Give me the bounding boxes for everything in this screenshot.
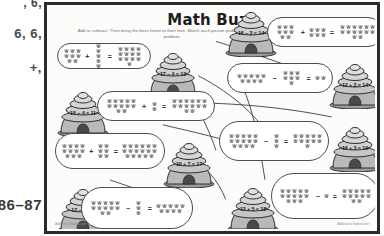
bee-icon [342,189,347,193]
bee-icon [190,109,195,113]
bee-group-addend-b [93,44,104,68]
beehive-hive-10-7[interactable]: 10 + 7 = 17 [161,142,217,188]
beehive-hive-16-3[interactable]: 16 + 3 = 19 [327,126,375,172]
bee-icon [104,144,109,148]
bee-icon [293,134,298,138]
equals-symbol: = [113,148,119,155]
bee-icon [289,25,294,29]
bee-icon [146,149,151,153]
bee-icon [184,109,189,113]
bee-group-addend-b [281,71,303,85]
bee-icon [321,33,326,37]
bee-icon [140,149,145,153]
picture-problem-problem-mid-left[interactable]: + = [97,91,215,121]
bee-icon [309,28,314,32]
bee-icon [74,149,79,153]
bee-icon [136,47,141,51]
bee-icon [261,74,266,78]
operator-symbol: − [263,138,269,145]
picture-problem-contents: − = [88,201,186,215]
beehive-equation-label: 13 + 5 = 18 [225,206,281,212]
bee-icon [229,134,234,138]
picture-problem-problem-top-left[interactable]: + = [57,43,151,69]
bee-icon [253,134,258,138]
bee-icon [358,35,363,39]
bee-group-addend-b [272,134,280,148]
bee-icon [115,206,120,210]
bee-icon [280,189,285,193]
equals-symbol: = [329,29,335,36]
picture-problem-problem-center-right[interactable]: − = [219,121,329,161]
bee-icon [109,201,114,205]
bee-icon [360,194,365,198]
bee-icon [131,154,136,158]
bee-icon [348,194,353,198]
bee-icon [67,59,72,63]
bee-icon [255,74,260,78]
bee-icon [119,104,124,108]
picture-problem-contents: + = [104,99,208,113]
bee-icon [113,99,118,103]
bee-icon [241,139,246,143]
bee-icon [98,149,103,153]
bee-icon [104,149,109,153]
bee-icon [125,104,130,108]
bee-icon [352,30,357,34]
bee-icon [293,139,298,143]
bee-icon [165,209,170,213]
bee-icon [96,44,101,48]
bee-group-result [122,144,158,158]
bee-icon [98,144,103,148]
bee-group-addend-a [278,189,312,203]
bee-icon [321,76,326,80]
bee-icon [122,144,127,148]
beehive-hive-12-2[interactable]: 12 + 2 = 14 [327,63,375,109]
operator-symbol: + [88,148,94,155]
bee-icon [177,209,182,213]
bee-icon [136,57,141,61]
bee-icon [311,139,316,143]
bee-icon [292,194,297,198]
bee-icon [128,149,133,153]
beehive-equation-label: 10 + 7 = 17 [161,161,217,167]
bee-icon [64,49,69,53]
bee-icon [68,149,73,153]
bee-icon [277,25,282,29]
bee-icon [292,199,297,203]
equals-symbol: = [161,103,167,110]
bee-icon [280,35,285,39]
bee-icon [172,104,177,108]
footer-right-label: Addition & Subtraction [337,222,369,226]
bee-icon [116,109,121,113]
bee-icon [364,30,369,34]
bee-icon [309,33,314,37]
bee-icon [274,144,279,148]
bee-icon [321,28,326,32]
bee-icon [346,30,351,34]
operator-symbol: + [84,53,90,60]
bee-icon [124,57,129,61]
bee-icon [152,102,157,106]
bee-icon [315,33,320,37]
picture-problem-problem-bottom-right[interactable]: − = [271,173,375,219]
picture-problem-problem-mid-right[interactable]: − = [227,63,333,93]
bee-icon [190,104,195,108]
picture-problem-contents: − = [278,189,372,203]
bee-icon [76,54,81,58]
bee-icon [196,104,201,108]
operator-symbol: − [271,75,277,82]
bee-icon [305,134,310,138]
bee-icon [178,99,183,103]
bee-icon [292,189,297,193]
bee-icon [127,62,132,66]
picture-problem-problem-center-left[interactable]: + = [55,133,165,169]
picture-problem-problem-bottom-left[interactable]: − = [81,187,193,229]
bee-icon [311,134,316,138]
beehive-equation-label: 17 − 4 = 13 [145,71,201,77]
bee-group-result [292,134,322,148]
equals-symbol: = [306,75,312,82]
picture-problem-problem-top-right[interactable]: + = [267,17,375,47]
bee-icon [274,139,279,143]
operator-symbol: − [315,193,321,200]
bee-icon [346,25,351,29]
